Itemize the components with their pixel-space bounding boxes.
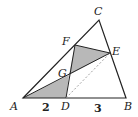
label-b: B	[123, 100, 132, 113]
geometry-diagram: A B C D E F G 2 3	[0, 0, 138, 117]
label-c: C	[94, 5, 103, 18]
label-d: D	[60, 100, 70, 113]
label-f: F	[61, 35, 70, 48]
label-a: A	[9, 100, 18, 113]
length-db: 3	[94, 102, 102, 115]
label-g: G	[58, 67, 67, 80]
length-ad: 2	[42, 101, 50, 114]
label-e: E	[111, 45, 120, 58]
